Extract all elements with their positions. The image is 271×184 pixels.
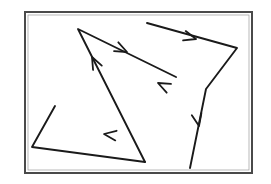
line-drawing-canvas <box>0 0 271 184</box>
figure-root: Directed polyline figure Hand-drawn styl… <box>0 0 271 184</box>
